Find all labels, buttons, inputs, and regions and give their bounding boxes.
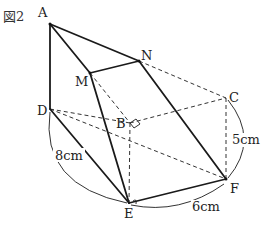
- edge-BC: [130, 98, 226, 123]
- vertex-label-N: N: [141, 48, 152, 63]
- vertex-label-E: E: [124, 206, 134, 221]
- vertex-label-B: B: [116, 116, 126, 131]
- dimension-DE: 8cm: [55, 148, 83, 163]
- visible-edges: [50, 24, 226, 203]
- edge-MN: [90, 61, 139, 73]
- edge-AN: [50, 24, 139, 61]
- vertex-label-D: D: [37, 103, 47, 118]
- edge-BE: [129, 123, 130, 203]
- vertex-label-C: C: [229, 90, 239, 105]
- figure-caption: 図2: [3, 9, 24, 24]
- vertex-label-F: F: [230, 181, 239, 196]
- vertex-label-M: M: [75, 74, 88, 89]
- dimension-CF: 5cm: [232, 132, 260, 147]
- dimension-EF: 6cm: [192, 199, 220, 214]
- vertex-label-A: A: [37, 5, 48, 20]
- geometry-diagram: 図2 8cm 6cm 5cm A N M: [0, 0, 270, 234]
